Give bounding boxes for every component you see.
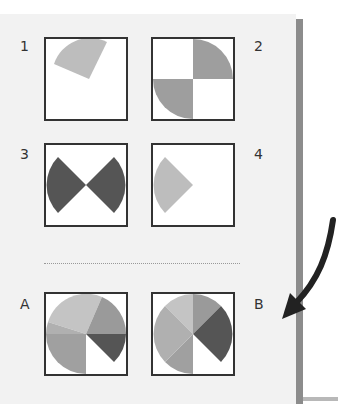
label-3: 3 [20,146,29,162]
sector-figure-2 [153,39,233,119]
figure-2 [151,37,235,121]
bottom-edge [303,397,338,401]
pie-figure-a [46,294,126,374]
figure-1 [44,37,128,121]
label-2: 2 [254,38,263,54]
page-edge-shadow [296,19,303,404]
pie-figure-b [153,294,233,374]
option-a[interactable] [44,292,128,376]
figure-4 [151,143,235,227]
sector-figure-3 [46,145,126,225]
figure-3 [44,143,128,227]
option-b[interactable] [151,292,235,376]
option-label-a: A [20,296,30,312]
sector-figure-1 [46,39,126,119]
label-1: 1 [20,38,29,54]
divider-line [44,263,240,264]
curved-arrow-icon [278,215,338,325]
label-4: 4 [254,146,263,162]
option-label-b: B [254,296,264,312]
sector-figure-4 [153,145,233,225]
